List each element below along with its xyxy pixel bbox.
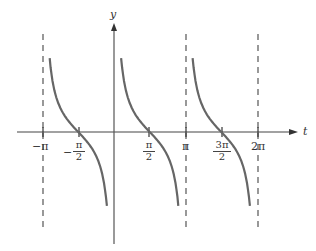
- y-axis-label: y: [110, 9, 116, 20]
- y-axis-arrow-icon: [111, 23, 117, 31]
- denominator: 2: [143, 152, 155, 163]
- tick-label-pi: π: [182, 141, 189, 152]
- cot-curve: [50, 58, 250, 206]
- tick-label-pi-over-2: π 2: [143, 140, 155, 162]
- x-axis-arrow-icon: [289, 129, 298, 135]
- numerator: π: [73, 140, 85, 152]
- tick-label-neg-pi-over-2: π 2: [73, 140, 85, 162]
- plot-area: [0, 0, 316, 251]
- tick-label-3pi-over-2: 3π 2: [213, 140, 231, 162]
- numerator: π: [143, 140, 155, 152]
- t-axis-label: t: [303, 126, 307, 137]
- numerator: 3π: [213, 140, 231, 152]
- cotangent-graph: y t −π − π 2 π 2 π 3π 2 2π: [0, 0, 316, 251]
- tick-label-neg-pi: −π: [32, 141, 48, 152]
- denominator: 2: [73, 152, 85, 163]
- tick-label-neg-sign: −: [63, 146, 72, 159]
- denominator: 2: [213, 152, 231, 163]
- tick-label-2pi: 2π: [251, 141, 265, 152]
